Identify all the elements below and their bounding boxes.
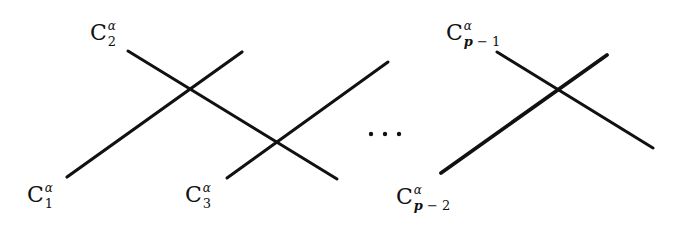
label-c2: Cα2	[90, 22, 147, 52]
curve-cp2-line	[441, 55, 607, 173]
curve-c1-line	[67, 52, 242, 177]
ellipsis-dot	[383, 132, 387, 136]
label-c3: Cα3	[185, 184, 242, 214]
label-cp1: Cαp − 1	[446, 22, 523, 52]
ellipsis-dot	[369, 132, 373, 136]
curve-c2-line	[128, 51, 337, 179]
label-c1: Cα1	[27, 184, 84, 214]
curve-cp1-line	[497, 52, 653, 148]
label-cp2: Cαp − 2	[396, 186, 473, 216]
ellipsis-dot	[397, 132, 401, 136]
